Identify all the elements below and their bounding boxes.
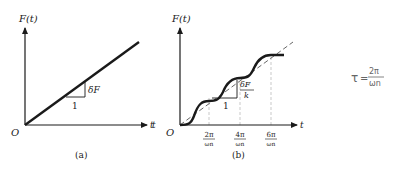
tick-label-2: 4π ωn bbox=[234, 131, 246, 147]
panel-b: F(t) t t O δF k 1 2π ωn 4π ωn 6π ωn (b) bbox=[152, 13, 304, 160]
origin-label: O bbox=[166, 127, 174, 138]
tick-label-3: 6π ωn bbox=[265, 131, 277, 147]
panel-a: F(t) t O δF 1 (a) bbox=[11, 13, 154, 160]
tick-label-1: 2π ωn bbox=[203, 131, 215, 147]
equals-sign: = bbox=[360, 73, 368, 84]
y-axis-label: F(t) bbox=[171, 13, 191, 24]
caption-a: (a) bbox=[75, 150, 87, 160]
left-t-label: t bbox=[152, 120, 156, 130]
svg-text:ωn: ωn bbox=[267, 140, 276, 147]
svg-text:6π: 6π bbox=[266, 131, 275, 139]
annotation-numerator: 2π bbox=[369, 67, 379, 76]
annotation-denominator: ωn bbox=[369, 79, 381, 88]
svg-text:ωn: ωn bbox=[236, 140, 245, 147]
slope-rise-numerator: δF bbox=[240, 80, 251, 89]
figure-canvas: F(t) t O δF 1 (a) F(t) t t O δF k 1 2π ω… bbox=[0, 0, 404, 170]
slope-rise-label: δF bbox=[88, 85, 100, 95]
ramp-line bbox=[25, 42, 139, 125]
slope-rise-denominator: k bbox=[244, 91, 249, 100]
tau-symbol: τ bbox=[351, 71, 358, 85]
handwritten-annotation: τ = 2π ωn bbox=[351, 67, 384, 88]
x-axis-label: t bbox=[300, 120, 304, 130]
y-axis-label: F(t) bbox=[18, 13, 38, 24]
origin-label: O bbox=[11, 127, 19, 138]
svg-text:4π: 4π bbox=[235, 131, 244, 139]
svg-text:2π: 2π bbox=[204, 131, 213, 139]
caption-b: (b) bbox=[232, 150, 245, 160]
svg-text:ωn: ωn bbox=[205, 140, 214, 147]
slope-run-label: 1 bbox=[223, 101, 229, 111]
response-curve bbox=[180, 55, 284, 125]
slope-run-label: 1 bbox=[72, 101, 78, 111]
